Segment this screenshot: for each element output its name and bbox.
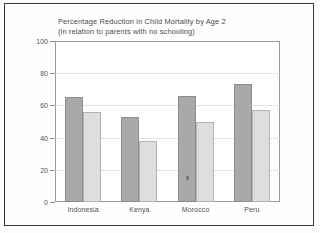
y-axis-tick-label: 60: [22, 102, 48, 109]
bar-morocco-mother-educated: [178, 96, 196, 202]
chart-title-line-2: (in relation to parents with no schoolin…: [58, 27, 195, 36]
bars-layer: [55, 41, 280, 202]
y-axis-tick-label: 20: [22, 166, 48, 173]
bar-morocco-father-educated: [196, 122, 214, 203]
chart-title: Percentage Reduction in Child Mortality …: [58, 17, 288, 36]
x-axis-label-indonesia: Indonesia: [55, 206, 111, 213]
x-axis-label-kenya: Kenya: [111, 206, 167, 213]
scan-speck-artifact: [186, 176, 189, 180]
x-axis-label-morocco: Morocco: [168, 206, 224, 213]
y-axis-tick-label: 40: [22, 134, 48, 141]
chart-title-line-1: Percentage Reduction in Child Mortality …: [58, 17, 226, 26]
x-axis-label-peru: Peru: [224, 206, 280, 213]
bar-kenya-father-educated: [139, 141, 157, 202]
y-axis-tick-label: 80: [22, 70, 48, 77]
bar-peru-mother-educated: [234, 84, 252, 202]
y-axis-tick-label: 100: [22, 38, 48, 45]
chart-page: Percentage Reduction in Child Mortality …: [0, 0, 320, 233]
y-axis-tick-label: 0: [22, 199, 48, 206]
bar-peru-father-educated: [252, 110, 270, 202]
bar-indonesia-mother-educated: [65, 97, 83, 202]
bar-kenya-mother-educated: [121, 117, 139, 202]
y-axis-tick-mark: [50, 202, 55, 203]
bar-indonesia-father-educated: [83, 112, 101, 202]
